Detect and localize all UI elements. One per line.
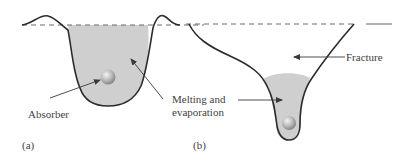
diagram-canvas: Absorber (a) Melting and evaporation (b)…	[0, 0, 408, 157]
panel-a-label: (a)	[22, 139, 34, 152]
melting-label-line1: Melting and	[172, 93, 225, 106]
diagram-graphics	[0, 0, 408, 157]
absorber-ball-b	[282, 116, 296, 130]
absorber-ball-a	[101, 70, 116, 85]
melt-pool-fill-b	[262, 73, 310, 140]
absorber-label: Absorber	[28, 108, 69, 121]
panel-b	[186, 24, 392, 140]
fracture-label: Fracture	[346, 51, 383, 64]
panel-b-label: (b)	[193, 139, 206, 152]
melting-label-line2: evaporation	[172, 106, 224, 119]
